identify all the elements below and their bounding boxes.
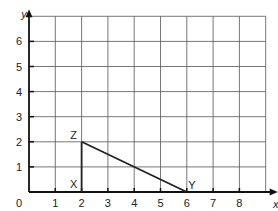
y-tick-label: 4 (16, 86, 22, 98)
origin-label: 0 (16, 197, 22, 209)
y-tick-label: 1 (16, 161, 22, 173)
x-tick-label: 2 (79, 197, 85, 209)
y-tick-label: 2 (16, 136, 22, 148)
coordinate-grid: 123456781234560xy XYZ (0, 0, 278, 211)
x-tick-label: 5 (157, 197, 163, 209)
y-tick-label: 6 (16, 35, 22, 47)
axes (26, 9, 278, 195)
x-tick-label: 3 (105, 197, 111, 209)
x-tick-label: 1 (52, 197, 58, 209)
x-axis-label: x (272, 198, 278, 210)
x-axis-arrow-icon (270, 189, 278, 196)
x-tick-label: 7 (210, 197, 216, 209)
x-tick-label: 8 (236, 197, 242, 209)
point-labels: XYZ (70, 129, 196, 191)
grid-lines (29, 16, 266, 192)
x-tick-label: 4 (131, 197, 137, 209)
y-tick-label: 3 (16, 111, 22, 123)
y-tick-label: 5 (16, 61, 22, 73)
point-label-x: X (70, 178, 78, 190)
point-label-z: Z (70, 129, 77, 141)
x-tick-label: 6 (184, 197, 190, 209)
point-label-y: Y (188, 179, 196, 191)
